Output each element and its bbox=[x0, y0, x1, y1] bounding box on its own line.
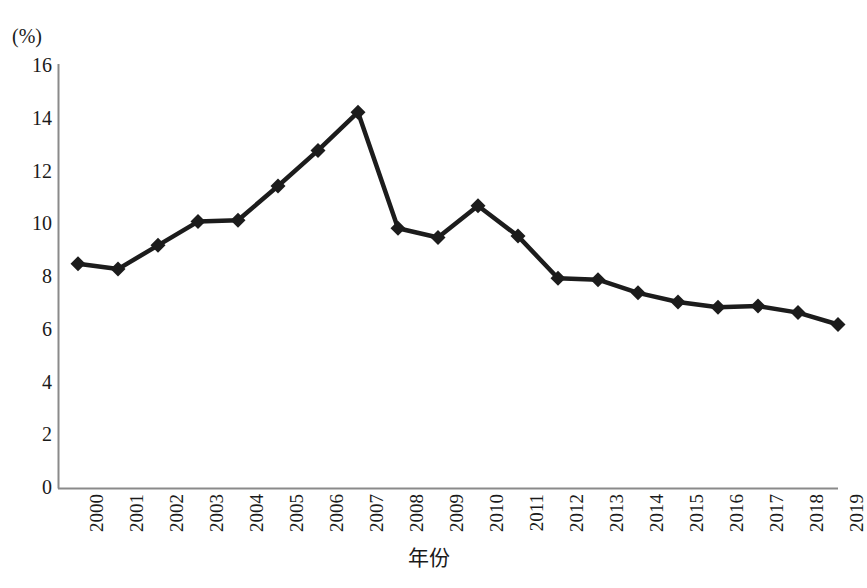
x-axis-title: 年份 bbox=[0, 548, 858, 569]
